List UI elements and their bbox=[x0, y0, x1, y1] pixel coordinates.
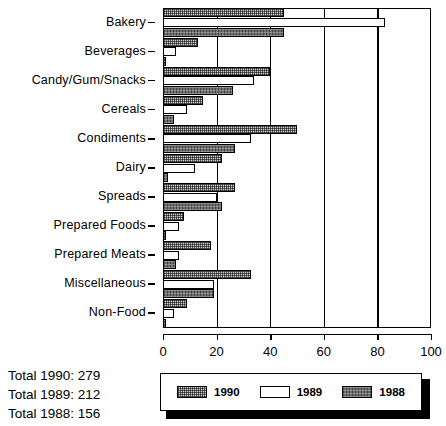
bar-1990 bbox=[163, 241, 211, 250]
category-tick bbox=[148, 80, 155, 82]
bar-1990 bbox=[163, 299, 187, 308]
bar-1990 bbox=[163, 38, 198, 47]
bar-1989 bbox=[163, 105, 187, 114]
bar-1990 bbox=[163, 270, 251, 279]
category-label: Beverages bbox=[84, 45, 146, 58]
x-tick-label: 0 bbox=[159, 344, 166, 359]
bar-1989 bbox=[163, 309, 174, 318]
x-tick bbox=[431, 334, 432, 340]
x-axis bbox=[163, 334, 431, 335]
category-tick bbox=[148, 167, 155, 169]
bar-1989 bbox=[163, 222, 179, 231]
bar-1990 bbox=[163, 67, 270, 76]
x-tick-label: 80 bbox=[370, 344, 384, 359]
bar-1988 bbox=[163, 173, 168, 182]
total-1990: Total 1990: 279 bbox=[8, 366, 100, 385]
category-label: Dairy bbox=[116, 161, 146, 174]
bar-1989 bbox=[163, 251, 179, 260]
legend-item-1988: 1988 bbox=[342, 386, 405, 398]
bar-1989 bbox=[163, 193, 217, 202]
category-tick bbox=[148, 254, 155, 256]
legend-item-1989: 1989 bbox=[260, 386, 323, 398]
bar-1990 bbox=[163, 96, 203, 105]
x-tick bbox=[377, 334, 378, 340]
bar-1988 bbox=[163, 115, 174, 124]
legend: 1990 1989 1988 bbox=[160, 373, 430, 417]
x-tick-label: 20 bbox=[209, 344, 223, 359]
bar-1989 bbox=[163, 164, 195, 173]
legend-swatch-1988 bbox=[342, 386, 372, 398]
bar-1989 bbox=[163, 18, 385, 27]
bar-1988 bbox=[163, 28, 284, 37]
bar-1988 bbox=[163, 231, 166, 240]
bar-1989 bbox=[163, 134, 251, 143]
legend-swatch-1990 bbox=[177, 386, 207, 398]
legend-label-1990: 1990 bbox=[214, 386, 240, 398]
legend-box: 1990 1989 1988 bbox=[160, 373, 422, 411]
category-tick bbox=[148, 312, 155, 314]
category-label: Cereals bbox=[102, 103, 146, 116]
total-1988: Total 1988: 156 bbox=[8, 404, 100, 423]
bar-1989 bbox=[163, 76, 254, 85]
bar-1990 bbox=[163, 154, 222, 163]
totals-block: Total 1990: 279 Total 1989: 212 Total 19… bbox=[8, 366, 100, 423]
x-tick-label: 60 bbox=[317, 344, 331, 359]
bar-1989 bbox=[163, 47, 176, 56]
legend-label-1988: 1988 bbox=[379, 386, 405, 398]
gridline-20 bbox=[217, 8, 218, 328]
x-tick-label: 40 bbox=[263, 344, 277, 359]
category-label: Condiments bbox=[77, 132, 146, 145]
chart-root: BakeryBeveragesCandy/Gum/SnacksCerealsCo… bbox=[0, 0, 446, 426]
bar-1988 bbox=[163, 57, 166, 66]
bar-1988 bbox=[163, 319, 166, 328]
category-label: Non-Food bbox=[89, 306, 146, 319]
bar-1988 bbox=[163, 260, 176, 269]
legend-label-1989: 1989 bbox=[297, 386, 323, 398]
bar-1990 bbox=[163, 125, 297, 134]
category-tick bbox=[148, 51, 155, 53]
x-tick bbox=[217, 334, 218, 340]
plot-area bbox=[163, 8, 431, 328]
x-tick bbox=[163, 334, 164, 340]
x-tick-label: 100 bbox=[420, 344, 442, 359]
gridline-40 bbox=[270, 8, 271, 328]
bar-1988 bbox=[163, 86, 233, 95]
bar-1988 bbox=[163, 202, 222, 211]
category-tick bbox=[148, 196, 155, 198]
x-tick bbox=[270, 334, 271, 340]
bar-1988 bbox=[163, 144, 235, 153]
legend-swatch-1989 bbox=[260, 386, 290, 398]
total-1989: Total 1989: 212 bbox=[8, 385, 100, 404]
bar-1990 bbox=[163, 212, 184, 221]
category-tick bbox=[148, 138, 155, 140]
bar-1990 bbox=[163, 183, 235, 192]
bar-1989 bbox=[163, 280, 214, 289]
x-tick bbox=[324, 334, 325, 340]
category-label: Prepared Foods bbox=[54, 219, 146, 232]
legend-item-1990: 1990 bbox=[177, 386, 240, 398]
category-label: Prepared Meats bbox=[54, 248, 146, 261]
gridline-60 bbox=[324, 8, 325, 328]
category-tick bbox=[148, 283, 155, 285]
category-label: Candy/Gum/Snacks bbox=[32, 74, 146, 87]
category-tick bbox=[148, 109, 155, 111]
category-axis: BakeryBeveragesCandy/Gum/SnacksCerealsCo… bbox=[0, 8, 158, 328]
bar-1990 bbox=[163, 8, 284, 17]
category-tick bbox=[148, 22, 155, 24]
category-label: Spreads bbox=[98, 190, 146, 203]
bar-1988 bbox=[163, 289, 214, 298]
category-tick bbox=[148, 225, 155, 227]
gridline-80 bbox=[377, 8, 378, 328]
category-label: Bakery bbox=[106, 16, 146, 29]
category-label: Miscellaneous bbox=[64, 277, 146, 290]
